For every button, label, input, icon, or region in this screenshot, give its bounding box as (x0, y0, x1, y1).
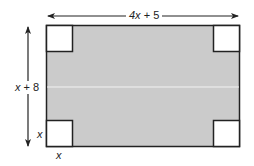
corner-square-bottom-right (214, 121, 240, 147)
width-label-rest: + 5 (141, 9, 160, 21)
width-label-var: 4x (129, 9, 141, 21)
width-label: 4x + 5 (126, 10, 162, 21)
corner-square-top-right (214, 26, 240, 52)
corner-side-horizontal-label: x (56, 150, 62, 161)
height-label-rest: + 8 (21, 81, 40, 93)
corner-square-bottom-left (47, 121, 73, 147)
height-label: x + 8 (15, 81, 39, 94)
corner-side-vertical-label: x (37, 129, 43, 140)
outer-rectangle (47, 26, 240, 147)
corner-square-top-left (47, 26, 73, 52)
